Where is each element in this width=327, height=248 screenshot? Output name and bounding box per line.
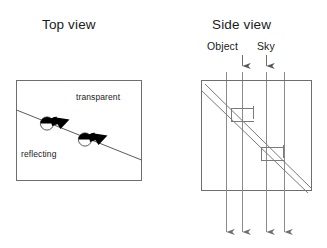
side-view-title: Side view (212, 18, 271, 32)
incoming-ray-label-sky: Sky (257, 41, 275, 52)
slab-upper-edge (205, 84, 312, 189)
side-view-panel (201, 55, 312, 232)
diagram-canvas (0, 0, 327, 248)
diagram-root: Top view Side view Object Sky transparen… (0, 0, 327, 248)
zone-label-reflecting: reflecting (21, 150, 57, 159)
incoming-ray-label-object: Object (207, 41, 238, 52)
slab-lower-edge (201, 90, 308, 193)
zone-label-transparent: transparent (76, 93, 120, 102)
top-view-title: Top view (42, 18, 96, 32)
